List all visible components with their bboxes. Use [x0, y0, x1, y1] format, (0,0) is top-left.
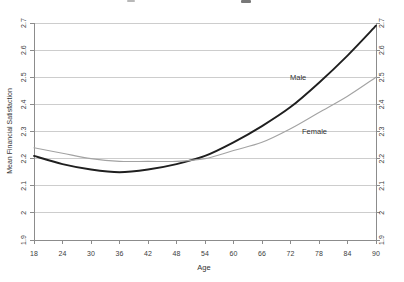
- x-tick-label: 66: [258, 250, 266, 257]
- x-tick-label: 84: [344, 250, 352, 257]
- y-tick-label-right: 2.4: [378, 99, 385, 109]
- x-tick-label: 30: [87, 250, 95, 257]
- y-tick-label-right: 2.1: [378, 181, 385, 191]
- y-tick-label-left: 2.3: [20, 127, 27, 137]
- x-tick-label: 18: [30, 250, 38, 257]
- x-tick-label: 42: [144, 250, 152, 257]
- x-tick-label: 60: [230, 250, 238, 257]
- y-tick-label-right: 1.9: [378, 235, 385, 245]
- x-axis-title: Age: [197, 263, 210, 272]
- cropped-title-fragment: [127, 0, 135, 2]
- chart-figure: 1.91.9222.12.12.22.22.32.32.42.42.52.52.…: [0, 0, 404, 282]
- x-tick-label: 48: [173, 250, 181, 257]
- y-tick-label-left: 1.9: [20, 235, 27, 245]
- male-curve: [34, 26, 376, 172]
- y-tick-label-left: 2.4: [20, 99, 27, 109]
- y-tick-label-left: 2.6: [20, 45, 27, 55]
- x-tick-label: 90: [372, 250, 380, 257]
- cropped-title-fragment: [241, 0, 251, 3]
- x-tick-label: 54: [201, 250, 209, 257]
- y-tick-label-left: 2.2: [20, 154, 27, 164]
- y-tick-label-left: 2: [20, 211, 27, 215]
- y-tick-label-left: 2.7: [20, 18, 27, 28]
- y-tick-label-left: 2.5: [20, 72, 27, 82]
- line-chart-canvas: 1.91.9222.12.12.22.22.32.32.42.42.52.52.…: [0, 0, 404, 282]
- x-tick-label: 78: [315, 250, 323, 257]
- y-tick-label-right: 2.5: [378, 72, 385, 82]
- y-tick-label-right: 2.7: [378, 18, 385, 28]
- x-tick-label: 24: [59, 250, 67, 257]
- female-curve: [34, 77, 376, 161]
- y-tick-label-right: 2: [378, 211, 385, 215]
- x-tick-label: 36: [116, 250, 124, 257]
- male-series-label: Male: [290, 73, 306, 82]
- y-axis-title: Mean Financial Satisfaction: [6, 88, 13, 174]
- y-tick-label-right: 2.2: [378, 154, 385, 164]
- chart-generated-layer: 1.91.9222.12.12.22.22.32.32.42.42.52.52.…: [20, 18, 385, 257]
- y-tick-label-right: 2.6: [378, 45, 385, 55]
- y-tick-label-left: 2.1: [20, 181, 27, 191]
- y-tick-label-right: 2.3: [378, 127, 385, 137]
- female-series-label: Female: [302, 127, 327, 136]
- x-tick-label: 72: [287, 250, 295, 257]
